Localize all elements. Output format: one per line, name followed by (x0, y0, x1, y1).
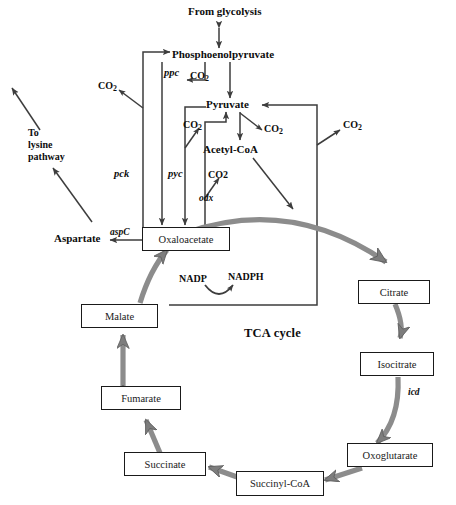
co2-text: CO (190, 70, 205, 81)
label-co2-ppc: CO2 (190, 71, 209, 83)
label-co2-pyruvate: CO2 (264, 124, 283, 136)
co2-subscript: 2 (279, 127, 283, 136)
label-to-lysine-line3: pathway (28, 152, 65, 163)
nadp-cofactor-arc (205, 285, 233, 294)
arrow-isocitrate-oxoglutarate (377, 377, 398, 443)
arrow-oxoglutarate-succinylcoa (325, 468, 362, 480)
label-pyruvate: Pyruvate (206, 99, 249, 111)
node-citrate[interactable]: Citrate (358, 280, 430, 304)
node-oxaloacetate[interactable]: Oxaloacetate (142, 227, 230, 251)
label-co2-pyc: CO2 (183, 120, 202, 132)
label-phosphoenolpyruvate: Phosphoenolpyruvate (172, 49, 274, 61)
co2-subscript: 2 (113, 84, 117, 93)
node-fumarate[interactable]: Fumarate (101, 386, 181, 410)
arrow-citrate-isocitrate (395, 304, 401, 338)
gene-label-pyc: pyc (168, 168, 183, 179)
co2-text: CO (343, 119, 358, 130)
tca-cycle-arrows (123, 220, 401, 480)
pathway-diagram: From glycolysis Phosphoenolpyruvate Pyru… (0, 0, 456, 505)
tca-cycle-title: TCA cycle (244, 327, 301, 340)
co2-text: CO (264, 123, 279, 134)
gene-label-pck: pck (114, 168, 129, 179)
co2-text: CO (98, 80, 113, 91)
co2-subscript: 2 (205, 74, 209, 83)
node-isocitrate[interactable]: Isocitrate (360, 352, 434, 376)
label-nadp: NADP (179, 274, 207, 285)
node-succinyl-coa[interactable]: Succinyl-CoA (236, 471, 324, 496)
label-co2-pck: CO2 (98, 81, 117, 93)
label-acetyl-coa: Acetyl-CoA (203, 144, 258, 156)
label-nadph: NADPH (228, 272, 264, 283)
label-aspartate: Aspartate (54, 233, 100, 245)
label-from-glycolysis: From glycolysis (188, 6, 261, 18)
label-to-lysine-line1: To (28, 128, 39, 139)
gene-label-odx: odx (199, 194, 213, 204)
gene-label-aspC: aspC (110, 228, 130, 238)
label-to-lysine-line2: lysine (28, 140, 52, 151)
node-succinate[interactable]: Succinate (124, 452, 206, 476)
gene-label-ppc: ppc (164, 67, 179, 78)
arrow-succinate-fumarate (146, 420, 160, 453)
gene-label-icd: icd (408, 388, 420, 398)
diagram-canvas (0, 0, 456, 505)
co2-text: CO (183, 119, 198, 130)
co2-subscript: 2 (358, 123, 362, 132)
node-oxoglutarate[interactable]: Oxoglutarate (347, 443, 433, 467)
node-malate[interactable]: Malate (81, 304, 158, 328)
label-co2-odx: CO2 (208, 170, 228, 181)
co2-subscript: 2 (198, 123, 202, 132)
arrow-malate-oaa (140, 250, 167, 303)
label-co2-tca: CO2 (343, 120, 362, 132)
